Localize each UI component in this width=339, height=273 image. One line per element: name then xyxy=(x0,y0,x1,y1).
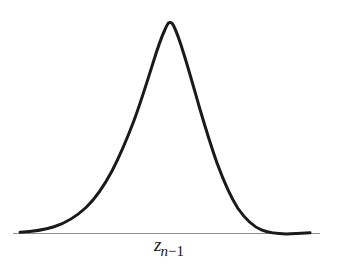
axis-label-subscript-number: 1 xyxy=(176,243,184,259)
plot-background xyxy=(0,0,339,273)
bell-curve-figure: zn−1 xyxy=(0,0,339,273)
axis-label-subscript-variable: n xyxy=(160,243,168,259)
x-axis-label: zn−1 xyxy=(0,238,339,257)
axis-label-subscript: n−1 xyxy=(160,243,183,259)
normal-distribution-plot xyxy=(0,0,339,273)
